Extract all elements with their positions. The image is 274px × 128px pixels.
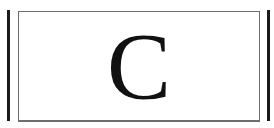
right-separator-bar: [267, 10, 270, 121]
clear-button[interactable]: C: [18, 11, 260, 122]
clear-button-label: C: [107, 19, 171, 115]
left-separator-bar: [7, 10, 10, 121]
